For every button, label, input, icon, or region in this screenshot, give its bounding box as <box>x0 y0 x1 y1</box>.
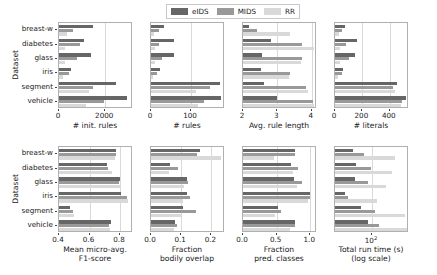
x-tick-label: 0.5 <box>270 236 281 243</box>
x-tick-label: 102 <box>365 236 377 245</box>
bar-eids-vehicle <box>243 220 295 223</box>
bar-swatch-icon <box>217 8 234 15</box>
x-tick-mark <box>371 233 372 235</box>
x-tick-label: 2 <box>240 112 245 119</box>
bar-mids-iris <box>151 72 157 75</box>
bar-mids-segment <box>243 86 306 89</box>
bar-mids-vehicle <box>151 100 204 103</box>
bar-group-diabetes <box>243 163 315 174</box>
bar-rr-breast-w <box>151 32 154 35</box>
bar-group-diabetes <box>335 39 407 50</box>
bar-mids-diabetes <box>243 43 302 46</box>
bar-rr-breast-w <box>335 32 339 35</box>
bar-mids-breast-w <box>243 153 295 156</box>
bar-mids-segment <box>59 86 93 89</box>
bar-rr-glass <box>151 61 155 64</box>
bar-rr-vehicle <box>59 104 86 107</box>
bar-rr-iris <box>335 199 377 202</box>
bar-group-breast-w <box>59 149 131 160</box>
bar-rr-segment <box>59 214 74 217</box>
bar-group-diabetes <box>243 39 315 50</box>
bar-group-iris <box>335 68 407 79</box>
bar-eids-breast-w <box>59 25 93 28</box>
bar-group-breast-w <box>151 149 223 160</box>
legend-item-mids: MIDS <box>217 8 256 15</box>
bar-rr-diabetes <box>335 171 392 174</box>
bar-eids-diabetes <box>335 163 356 166</box>
y-tick-mark <box>55 101 57 102</box>
bar-rr-iris <box>151 199 183 202</box>
chart-panel-2: 234Avg. rule length <box>242 22 316 108</box>
bar-group-vehicle <box>151 96 223 107</box>
bar-rr-iris <box>243 75 289 78</box>
plot-area <box>334 146 408 232</box>
bar-group-vehicle <box>243 220 315 231</box>
bar-mids-diabetes <box>335 43 346 46</box>
x-tick-label: 0 <box>56 112 61 119</box>
bar-group-iris <box>243 192 315 203</box>
bar-group-segment <box>151 82 223 93</box>
bar-mids-glass <box>243 57 302 60</box>
bar-group-diabetes <box>59 39 131 50</box>
x-tick-label: 0.0 <box>236 236 247 243</box>
bar-eids-diabetes <box>243 39 271 42</box>
chart-panel-6: 0.00.51.0Fraction pred. classes <box>242 146 316 232</box>
bar-eids-glass <box>59 177 120 180</box>
bar-eids-segment <box>243 82 264 85</box>
bar-rr-glass <box>59 185 120 188</box>
plot-area <box>242 22 316 108</box>
y-tick-label-iris: iris <box>1 193 53 200</box>
x-tick-label: 0 <box>148 112 153 119</box>
y-axis-label: Dataset <box>12 159 20 219</box>
bar-eids-segment <box>335 206 361 209</box>
bar-eids-vehicle <box>59 220 111 223</box>
bar-eids-segment <box>151 82 220 85</box>
bar-rr-breast-w <box>59 156 115 159</box>
bar-rr-vehicle <box>243 228 290 231</box>
bar-group-segment <box>59 206 131 217</box>
bar-rr-vehicle <box>151 228 174 231</box>
bar-group-breast-w <box>243 149 315 160</box>
bar-mids-vehicle <box>335 224 379 227</box>
y-tick-mark <box>55 196 57 197</box>
bar-eids-vehicle <box>335 96 406 99</box>
bar-eids-glass <box>335 53 355 56</box>
bar-group-diabetes <box>59 163 131 174</box>
bar-rr-vehicle <box>243 104 314 107</box>
y-tick-mark <box>55 72 57 73</box>
y-tick-label-iris: iris <box>1 69 53 76</box>
bar-group-diabetes <box>151 163 223 174</box>
bar-rr-iris <box>243 199 308 202</box>
bar-rr-diabetes <box>59 171 112 174</box>
bar-eids-diabetes <box>243 163 291 166</box>
bar-group-glass <box>243 177 315 188</box>
bar-eids-glass <box>243 177 294 180</box>
bar-rr-vehicle <box>335 228 407 231</box>
chart-panel-5: 0.00.10.2Fraction bodily overlap <box>150 146 224 232</box>
plot-area <box>150 22 224 108</box>
x-tick-label: 4 <box>309 112 314 119</box>
figure-root: eIDS MIDS RR 02000# init. rulesbreast-wd… <box>0 0 437 275</box>
chart-panel-4: 0.40.60.8Mean micro-avg. F1-scorebreast-… <box>58 146 132 232</box>
bar-group-iris <box>243 68 315 79</box>
bar-eids-vehicle <box>151 220 175 223</box>
bar-mids-breast-w <box>335 29 342 32</box>
bar-mids-vehicle <box>59 224 109 227</box>
y-tick-label-segment: segment <box>1 83 53 90</box>
bar-rr-breast-w <box>243 32 290 35</box>
x-tick-label: 200 <box>355 112 369 119</box>
bar-group-glass <box>243 53 315 64</box>
bar-rr-diabetes <box>59 47 65 50</box>
bar-group-vehicle <box>59 220 131 231</box>
bar-group-breast-w <box>335 149 407 160</box>
bar-group-breast-w <box>335 25 407 36</box>
y-tick-label-vehicle: vehicle <box>1 97 53 104</box>
bar-rr-segment <box>59 90 89 93</box>
chart-panel-0: 02000# init. rulesbreast-wdiabetesglassi… <box>58 22 132 108</box>
bar-group-iris <box>335 192 407 203</box>
bar-eids-glass <box>151 53 174 56</box>
bar-eids-vehicle <box>59 96 127 99</box>
bar-rr-iris <box>335 75 338 78</box>
y-tick-mark <box>55 29 57 30</box>
legend-item-rr: RR <box>264 8 295 15</box>
